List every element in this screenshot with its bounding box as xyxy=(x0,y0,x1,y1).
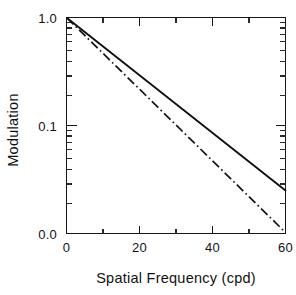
x-tick-label-4: 60 xyxy=(278,240,293,255)
x-tick-label-3: 40 xyxy=(205,240,220,255)
x-tick-label-2: 20 xyxy=(132,240,147,255)
data-curves xyxy=(67,18,286,233)
y-tick-label-3: 0.0 xyxy=(38,227,57,242)
x-tick-label-1: 0 xyxy=(63,240,70,255)
y-tick-label-2: 0.1 xyxy=(38,119,57,134)
y-axis-minor-ticks xyxy=(67,22,286,203)
series-solid-curve xyxy=(67,18,286,191)
x-axis-title: Spatial Frequency (cpd) xyxy=(96,270,256,286)
series-dash-dot-curve xyxy=(67,18,286,233)
y-tick-label-1: 1.0 xyxy=(38,11,57,26)
y-axis-title: Modulation xyxy=(5,93,21,166)
chart-figure: 1.0 0.1 0.0 0 20 40 60 Spatial Frequency… xyxy=(0,0,296,295)
mtf-plot: 1.0 0.1 0.0 0 20 40 60 Spatial Frequency… xyxy=(0,0,296,295)
